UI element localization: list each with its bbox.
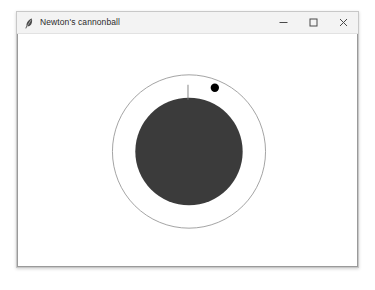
minimize-icon (278, 17, 289, 28)
title-bar-left-group: Newton's cannonball (17, 16, 268, 29)
planet (135, 98, 242, 206)
feather-icon (23, 16, 35, 29)
cannonball (211, 84, 219, 92)
maximize-button[interactable] (298, 12, 328, 33)
title-bar[interactable]: Newton's cannonball (17, 12, 358, 34)
application-window: Newton's cannonball (16, 11, 359, 268)
window-controls (268, 12, 358, 33)
close-button[interactable] (328, 12, 358, 33)
minimize-button[interactable] (268, 12, 298, 33)
newtons-cannonball-simulation[interactable] (18, 34, 357, 266)
window-title: Newton's cannonball (40, 18, 120, 27)
close-icon (338, 17, 349, 28)
simulation-canvas-area[interactable] (17, 34, 358, 267)
maximize-icon (308, 17, 319, 28)
